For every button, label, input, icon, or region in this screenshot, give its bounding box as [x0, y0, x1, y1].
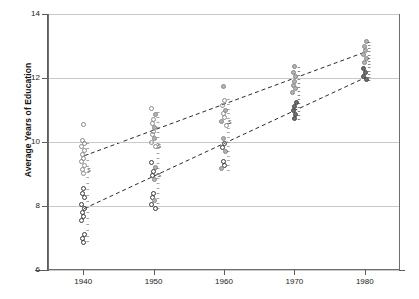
y-tick-mark-6: [42, 270, 48, 271]
point-annotation: ••: [86, 206, 89, 210]
point-annotation: ••: [86, 176, 89, 180]
point-annotation: ••: [297, 118, 300, 122]
point-annotation: ••: [86, 200, 89, 204]
data-point: [79, 218, 84, 223]
data-point: [149, 106, 154, 111]
point-annotation: ••: [86, 182, 89, 186]
data-point: [221, 84, 226, 89]
point-annotation: ••: [227, 169, 230, 173]
y-tick-label-6: 6: [14, 265, 40, 274]
y-tick-label-10: 10: [14, 137, 40, 146]
point-annotation: ••: [86, 142, 89, 146]
y-tick-mark-10: [42, 142, 48, 143]
point-annotation: ••: [86, 147, 89, 151]
point-annotation: ••: [86, 171, 89, 175]
point-annotation: ••: [86, 229, 89, 233]
point-annotation: ••: [86, 211, 89, 215]
x-tick-mark-1940: [83, 270, 84, 275]
point-annotation: ••: [86, 159, 89, 163]
y-tick-label-8: 8: [14, 201, 40, 210]
chart-figure: Average Years of Education 68101214 1940…: [0, 0, 419, 299]
y-tick-label-12: 12: [14, 73, 40, 82]
y-axis-title: Average Years of Education: [23, 40, 33, 200]
point-annotation: ••: [86, 240, 89, 244]
x-tick-label-1980: 1980: [345, 277, 385, 286]
gridline-y-8: [49, 206, 399, 207]
y-tick-mark-14: [42, 14, 48, 15]
data-point: [292, 116, 297, 121]
x-tick-mark-1970: [294, 270, 295, 275]
gridline-y-12: [49, 78, 399, 79]
x-tick-mark-1980: [365, 270, 366, 275]
data-point: [220, 103, 225, 108]
x-tick-label-1940: 1940: [63, 277, 103, 286]
y-tick-mark-12: [42, 78, 48, 79]
data-point: [362, 60, 367, 65]
x-tick-label-1960: 1960: [204, 277, 244, 286]
data-point: [81, 122, 86, 127]
point-annotation: ••: [86, 153, 89, 157]
x-tick-label-1950: 1950: [134, 277, 174, 286]
point-annotation: ••: [86, 235, 89, 239]
trendlines-layer: [1, 1, 419, 299]
point-annotation: ••: [86, 223, 89, 227]
gridline-y-14: [49, 14, 399, 15]
point-annotation: ••: [86, 165, 89, 169]
point-annotation: ••: [157, 207, 160, 211]
y-tick-label-14: 14: [14, 9, 40, 18]
x-tick-mark-1950: [154, 270, 155, 275]
x-tick-label-1970: 1970: [274, 277, 314, 286]
point-annotation: ••: [86, 194, 89, 198]
x-tick-mark-1960: [224, 270, 225, 275]
y-tick-mark-8: [42, 206, 48, 207]
point-annotation: ••: [86, 217, 89, 221]
point-annotation: ••: [368, 79, 371, 83]
point-annotation: ••: [86, 188, 89, 192]
